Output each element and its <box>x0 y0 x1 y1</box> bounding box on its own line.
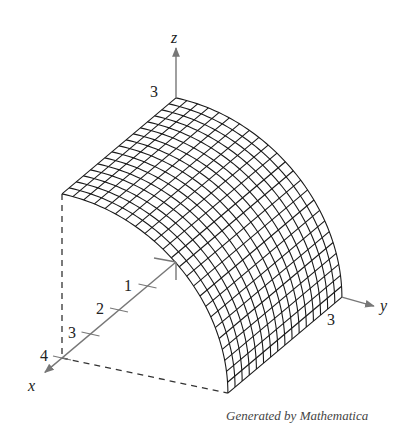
surface-plot-figure: z 3 y 3 1 2 3 4 x Generated by Mathemati… <box>0 0 417 437</box>
x-tick-label-2: 2 <box>96 301 104 317</box>
surface-mesh <box>62 98 342 393</box>
caption: Generated by Mathematica <box>226 408 368 424</box>
y-tick-label-3: 3 <box>327 312 335 328</box>
z-tick-label-3: 3 <box>150 84 158 100</box>
x-tick-label-3: 3 <box>68 325 76 341</box>
x-tick-label-4: 4 <box>40 348 48 364</box>
z-axis-label: z <box>171 30 177 46</box>
x-axis-label: x <box>28 378 35 394</box>
y-axis-label: y <box>380 298 387 314</box>
surface-plot-canvas <box>0 0 417 437</box>
x-tick-label-1: 1 <box>124 278 132 294</box>
